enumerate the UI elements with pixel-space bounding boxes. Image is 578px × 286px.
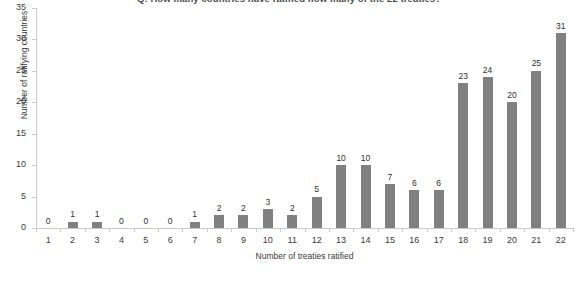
bar-slot[interactable]: 25 — [524, 8, 548, 228]
bar-slot[interactable]: 24 — [475, 8, 499, 228]
bar-value-label: 1 — [95, 210, 100, 219]
x-category-label: 6 — [158, 235, 182, 245]
x-tick — [134, 228, 135, 232]
x-tick — [256, 228, 257, 232]
bar-slot[interactable]: 31 — [549, 8, 573, 228]
bar-slot[interactable]: 20 — [500, 8, 524, 228]
x-category-label: 14 — [353, 235, 377, 245]
x-tick — [329, 228, 330, 232]
x-category-label: 11 — [280, 235, 304, 245]
chart-title: Q: How many countries have ratified how … — [0, 0, 578, 4]
bar[interactable] — [68, 222, 78, 228]
bar-slot[interactable]: 6 — [427, 8, 451, 228]
bar-value-label: 0 — [46, 217, 51, 226]
y-tick-label: 20 — [16, 96, 26, 106]
bar-value-label: 2 — [241, 204, 246, 213]
x-tick — [402, 228, 403, 232]
x-category-label: 4 — [109, 235, 133, 245]
x-category-label: 21 — [524, 235, 548, 245]
x-category-label: 9 — [231, 235, 255, 245]
x-tick — [427, 228, 428, 232]
bar[interactable] — [287, 215, 297, 228]
bar-value-label: 3 — [266, 198, 271, 207]
bar-value-label: 2 — [290, 204, 295, 213]
bar-value-label: 20 — [507, 91, 516, 100]
bar-value-label: 25 — [532, 59, 541, 68]
bar-value-label: 10 — [336, 154, 345, 163]
bar-slot[interactable]: 10 — [329, 8, 353, 228]
bar[interactable] — [531, 71, 541, 228]
bar[interactable] — [238, 215, 248, 228]
x-tick — [280, 228, 281, 232]
x-tick — [475, 228, 476, 232]
bar-slot[interactable]: 7 — [378, 8, 402, 228]
bar[interactable] — [483, 77, 493, 228]
bar-slot[interactable]: 10 — [353, 8, 377, 228]
bar[interactable] — [385, 184, 395, 228]
x-category-label: 12 — [305, 235, 329, 245]
bar-value-label: 5 — [314, 185, 319, 194]
bar-value-label: 0 — [168, 217, 173, 226]
x-category-label: 5 — [134, 235, 158, 245]
bar-slot[interactable]: 0 — [109, 8, 133, 228]
y-tick-label: 25 — [16, 65, 26, 75]
x-tick — [378, 228, 379, 232]
bar[interactable] — [434, 190, 444, 228]
y-tick-label: 30 — [16, 33, 26, 43]
bar-slot[interactable]: 3 — [256, 8, 280, 228]
bar-value-label: 0 — [143, 217, 148, 226]
x-tick — [231, 228, 232, 232]
bar-slot[interactable]: 5 — [305, 8, 329, 228]
x-tick — [182, 228, 183, 232]
bar-slot[interactable]: 0 — [134, 8, 158, 228]
bar-slot[interactable]: 2 — [207, 8, 231, 228]
bar-slot[interactable]: 0 — [158, 8, 182, 228]
x-tick — [524, 228, 525, 232]
x-tick — [573, 228, 574, 232]
bar-value-label: 0 — [119, 217, 124, 226]
bar[interactable] — [214, 215, 224, 228]
bar-slot[interactable]: 0 — [36, 8, 60, 228]
x-tick — [207, 228, 208, 232]
bar[interactable] — [312, 197, 322, 228]
y-tick-label: 35 — [16, 2, 26, 12]
x-category-label: 8 — [207, 235, 231, 245]
bar[interactable] — [507, 102, 517, 228]
x-category-label: 13 — [329, 235, 353, 245]
bar[interactable] — [190, 222, 200, 228]
x-tick — [500, 228, 501, 232]
bar[interactable] — [336, 165, 346, 228]
bar[interactable] — [263, 209, 273, 228]
x-category-label: 10 — [256, 235, 280, 245]
bar[interactable] — [409, 190, 419, 228]
bar[interactable] — [361, 165, 371, 228]
bar-slot[interactable]: 23 — [451, 8, 475, 228]
x-category-label: 19 — [475, 235, 499, 245]
y-tick-label: 10 — [16, 159, 26, 169]
bar-value-label: 10 — [361, 154, 370, 163]
bar-slot[interactable]: 6 — [402, 8, 426, 228]
bar[interactable] — [458, 83, 468, 228]
bar-slot[interactable]: 1 — [182, 8, 206, 228]
x-tick — [158, 228, 159, 232]
bar-slot[interactable]: 2 — [231, 8, 255, 228]
bar-slot[interactable]: 1 — [60, 8, 84, 228]
x-category-label: 17 — [427, 235, 451, 245]
x-category-label: 15 — [378, 235, 402, 245]
bar[interactable] — [556, 33, 566, 228]
bar-value-label: 7 — [388, 173, 393, 182]
x-tick — [305, 228, 306, 232]
bar-value-label: 6 — [412, 179, 417, 188]
y-tick-label: 15 — [16, 128, 26, 138]
x-axis-title: Number of treaties ratified — [36, 251, 573, 261]
x-tick — [353, 228, 354, 232]
bar[interactable] — [92, 222, 102, 228]
plot-area: 05101520253035 0110001223251010766232420… — [36, 8, 573, 228]
bar-slot[interactable]: 2 — [280, 8, 304, 228]
bar-slot[interactable]: 1 — [85, 8, 109, 228]
x-category-label: 18 — [451, 235, 475, 245]
x-tick — [451, 228, 452, 232]
x-tick — [85, 228, 86, 232]
y-tick-label: 0 — [21, 222, 26, 232]
bar-chart: Q: How many countries have ratified how … — [0, 0, 578, 286]
